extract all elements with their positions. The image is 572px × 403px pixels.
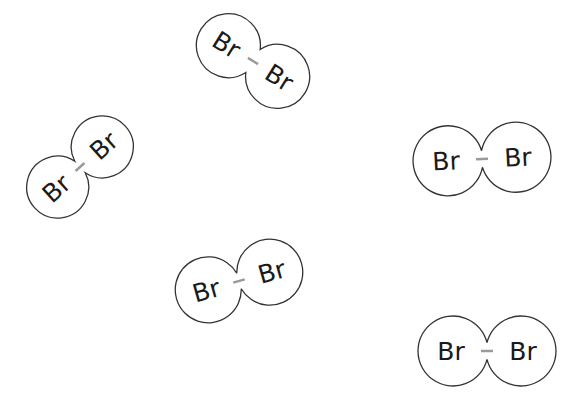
diagram-svg: BrBrBrBrBrBrBrBrBrBr — [0, 0, 572, 403]
bromine-molecules-diagram: BrBrBrBrBrBrBrBrBrBr — [0, 0, 572, 403]
atom-label-right: Br — [509, 337, 537, 366]
single-bond — [476, 159, 488, 160]
br2-molecule: BrBr — [167, 231, 310, 330]
atom-label-left: Br — [437, 337, 465, 366]
br2-molecule: BrBr — [14, 103, 146, 231]
atom-label-left: Br — [432, 146, 462, 176]
br2-molecule: BrBr — [411, 120, 552, 197]
br2-molecule: BrBr — [184, 2, 321, 121]
br2-molecule: BrBr — [418, 316, 556, 386]
atom-label-right: Br — [504, 142, 534, 172]
